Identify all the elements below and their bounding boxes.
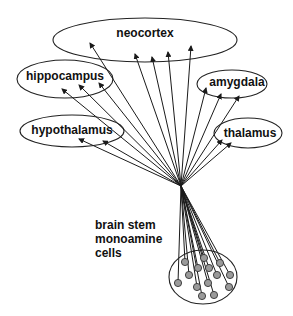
monoamine-cell [200, 254, 207, 261]
monoamine-cell [226, 271, 233, 278]
monoamine-cell [213, 271, 220, 278]
region-label-neocortex: neocortex [116, 26, 174, 40]
region-label-hypothalamus: hypothalamus [31, 123, 113, 137]
region-label-thalamus: thalamus [224, 126, 277, 140]
projection-arrow-hippocampus [62, 89, 181, 186]
monoamine-cell [204, 279, 211, 286]
monoamine-cell [194, 264, 201, 271]
axon-line [178, 186, 181, 283]
monoamine-cell [216, 259, 223, 266]
monoamine-cell [210, 291, 217, 298]
region-ellipse-neocortex [53, 18, 237, 62]
source-cluster [169, 250, 237, 304]
monoamine-cell [198, 292, 205, 299]
monoamine-cell [174, 279, 181, 286]
region-label-amygdala: amygdala [209, 75, 265, 89]
monoamine-cell [193, 283, 200, 290]
projection-arrow-thalamus [181, 143, 231, 186]
monoamine-cell [205, 264, 212, 271]
monoamine-cell [185, 271, 192, 278]
source-label-line-3: cells [95, 246, 122, 260]
monoamine-cell [225, 283, 232, 290]
monoamine-projection-diagram: neocortex hippocampus amygdala hypothala… [0, 0, 293, 316]
monoamine-cell [181, 258, 188, 265]
projection-arrow-amygdala [181, 96, 239, 186]
source-label-line-1: brain stem [95, 218, 156, 232]
labels: neocortex hippocampus amygdala hypothala… [26, 26, 277, 260]
source-label-line-2: monoamine [95, 232, 163, 246]
region-label-hippocampus: hippocampus [26, 69, 104, 83]
projection-arrow-neocortex [152, 57, 181, 186]
